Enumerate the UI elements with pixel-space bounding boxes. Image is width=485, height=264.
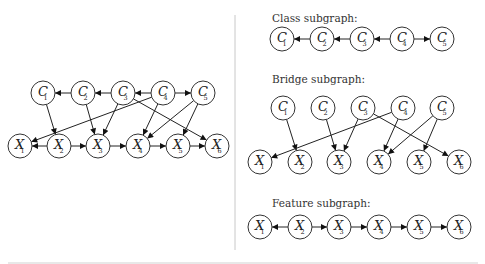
- bridge-subgraph-title: Bridge subgraph:: [272, 73, 365, 85]
- node-c4: C4: [151, 81, 175, 105]
- edge-c3-to-x3: [344, 119, 358, 151]
- node-x1: X1: [248, 150, 272, 174]
- node-subscript: 2: [60, 147, 64, 155]
- node-subscript: 2: [301, 228, 305, 236]
- node-x6: X6: [447, 150, 471, 174]
- node-subscript: 2: [323, 40, 327, 48]
- node-subscript: 1: [261, 228, 265, 236]
- class-subgraph-title: Class subgraph:: [272, 12, 358, 24]
- node-c1: C1: [270, 27, 294, 51]
- node-c2: C2: [310, 27, 334, 51]
- node-subscript: 4: [139, 147, 143, 155]
- node-x2: X2: [288, 150, 312, 174]
- edge-c1-to-x2: [287, 119, 297, 150]
- feature-subgraph: X1X2X3X4X5X6: [248, 215, 471, 239]
- node-x4: X4: [367, 215, 391, 239]
- full-graph: C1C2C3C4C5X1X2X3X4X5X6: [8, 81, 229, 158]
- edge-c5-to-x4: [388, 116, 433, 154]
- node-x5: X5: [407, 150, 431, 174]
- node-subscript: 1: [261, 163, 265, 171]
- node-subscript: 2: [324, 109, 328, 117]
- node-subscript: 3: [99, 147, 103, 155]
- node-x3: X3: [327, 215, 351, 239]
- node-c2: C2: [71, 81, 95, 105]
- node-x4: X4: [126, 134, 150, 158]
- node-x1: X1: [8, 134, 32, 158]
- node-subscript: 4: [380, 163, 384, 171]
- node-subscript: 5: [420, 228, 424, 236]
- feature-subgraph-title: Feature subgraph:: [272, 197, 371, 209]
- node-subscript: 5: [420, 163, 424, 171]
- node-c1: C1: [31, 81, 55, 105]
- node-c5: C5: [430, 27, 454, 51]
- node-subscript: 6: [460, 228, 464, 236]
- node-subscript: 3: [363, 40, 367, 48]
- node-x5: X5: [407, 215, 431, 239]
- node-subscript: 2: [84, 94, 88, 102]
- node-subscript: 1: [283, 40, 287, 48]
- node-c5: C5: [191, 81, 215, 105]
- node-x3: X3: [327, 150, 351, 174]
- node-c2: C2: [311, 96, 335, 120]
- node-c1: C1: [271, 96, 295, 120]
- node-subscript: 3: [340, 228, 344, 236]
- node-subscript: 1: [44, 94, 48, 102]
- node-c4: C4: [391, 96, 415, 120]
- node-c5: C5: [430, 96, 454, 120]
- edge-c5-to-x5: [183, 104, 198, 135]
- edge-c5-to-x4: [147, 101, 193, 139]
- node-x3: X3: [86, 134, 110, 158]
- node-c4: C4: [390, 27, 414, 51]
- figure-canvas: C1C2C3C4C5X1X2X3X4X5X6 Class subgraph: C…: [0, 0, 485, 264]
- node-subscript: 4: [380, 228, 384, 236]
- node-subscript: 5: [179, 147, 183, 155]
- node-subscript: 3: [340, 163, 344, 171]
- node-c3: C3: [351, 96, 375, 120]
- node-c3: C3: [350, 27, 374, 51]
- node-c3: C3: [111, 81, 135, 105]
- node-x1: X1: [248, 215, 272, 239]
- node-subscript: 6: [218, 147, 222, 155]
- node-subscript: 1: [284, 109, 288, 117]
- node-x2: X2: [47, 134, 71, 158]
- node-x2: X2: [288, 215, 312, 239]
- class-subgraph: C1C2C3C4C5: [270, 27, 454, 51]
- node-subscript: 3: [124, 94, 128, 102]
- node-x4: X4: [367, 150, 391, 174]
- node-subscript: 3: [364, 109, 368, 117]
- node-subscript: 6: [460, 163, 464, 171]
- node-subscript: 5: [443, 40, 447, 48]
- node-subscript: 5: [204, 94, 208, 102]
- node-subscript: 2: [301, 163, 305, 171]
- node-subscript: 1: [21, 147, 25, 155]
- node-x6: X6: [447, 215, 471, 239]
- node-subscript: 4: [164, 94, 168, 102]
- node-subscript: 4: [404, 109, 408, 117]
- node-x5: X5: [166, 134, 190, 158]
- node-subscript: 5: [443, 109, 447, 117]
- bridge-subgraph: C1C2C3C4C5X1X2X3X4X5X6: [248, 96, 471, 174]
- edge-c3-to-x3: [103, 104, 118, 135]
- node-x6: X6: [205, 134, 229, 158]
- edge-c1-to-x2: [46, 104, 55, 134]
- node-subscript: 4: [403, 40, 407, 48]
